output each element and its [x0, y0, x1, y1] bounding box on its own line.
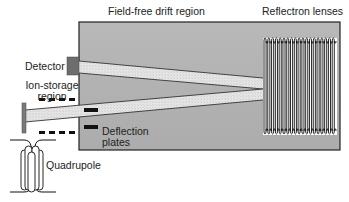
label-drift-region: Field-free drift region [108, 6, 205, 17]
deflection-plate-lower [84, 125, 98, 129]
reflectron-lenses [263, 38, 337, 135]
label-ion-storage-line2: region [24, 91, 80, 102]
label-quadrupole: Quadrupole [46, 160, 101, 171]
ion-storage-grid-lower [39, 131, 75, 134]
label-detector: Detector [25, 61, 65, 72]
label-ion-storage: Ion-storage region [24, 80, 80, 102]
detector [67, 57, 79, 75]
ion-storage-electrode [22, 103, 26, 133]
deflection-plate-upper [84, 108, 98, 112]
label-reflectron: Reflectron lenses [262, 6, 343, 17]
label-deflection-line2: plates [102, 137, 149, 148]
label-deflection-plates: Deflection plates [102, 126, 149, 148]
